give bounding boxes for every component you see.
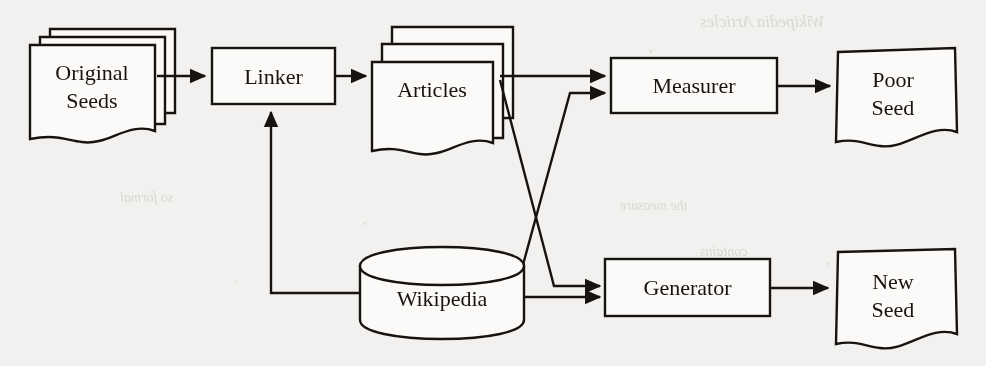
node-label-poor-seed-line1: Poor — [872, 67, 914, 92]
node-label-new-seed-line2: Seed — [872, 297, 915, 322]
node-label-generator: Generator — [644, 275, 733, 300]
node-original-seeds[interactable]: Original Seeds — [30, 29, 175, 142]
pipeline-diagram: Original Seeds Linker Articles Measure — [0, 0, 986, 366]
node-label-measurer: Measurer — [652, 73, 736, 98]
node-label-linker: Linker — [244, 64, 303, 89]
database-cylinder-top-ellipse — [360, 247, 524, 285]
edge-articles-to-generator — [500, 80, 600, 286]
node-measurer[interactable]: Measurer — [611, 58, 777, 113]
edge-wikipedia-to-measurer — [521, 93, 605, 272]
document-stack-sheet-front — [372, 62, 493, 154]
node-linker[interactable]: Linker — [212, 48, 335, 104]
node-label-original-seeds-line2: Seeds — [66, 88, 117, 113]
node-label-poor-seed-line2: Seed — [872, 95, 915, 120]
node-wikipedia[interactable]: Wikipedia — [360, 247, 524, 339]
node-new-seed[interactable]: New Seed — [836, 249, 957, 348]
node-label-wikipedia: Wikipedia — [397, 286, 488, 311]
node-label-new-seed-line1: New — [872, 269, 914, 294]
node-poor-seed[interactable]: Poor Seed — [836, 48, 957, 146]
node-generator[interactable]: Generator — [605, 259, 770, 316]
edge-wikipedia-to-linker — [271, 112, 360, 293]
node-label-original-seeds-line1: Original — [55, 60, 128, 85]
node-articles[interactable]: Articles — [372, 27, 513, 154]
node-label-articles: Articles — [397, 77, 467, 102]
